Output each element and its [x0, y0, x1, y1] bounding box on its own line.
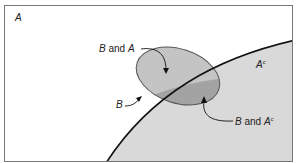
venn-diagram: A Ac B and A B B and Ac — [0, 0, 296, 163]
label-b-and-a: B and A — [99, 43, 135, 54]
label-b-and-a-complement: B and Ac — [235, 116, 274, 127]
label-b: B — [116, 99, 123, 110]
label-a: A — [14, 12, 22, 23]
